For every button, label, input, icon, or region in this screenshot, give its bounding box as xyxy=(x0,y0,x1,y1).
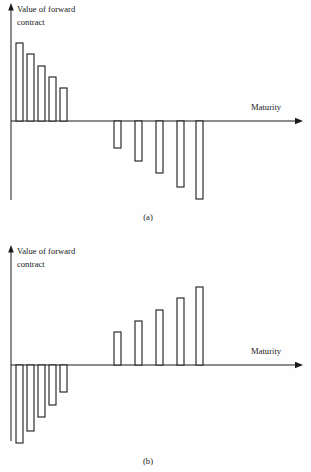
x-axis-arrowhead-a xyxy=(295,118,303,124)
panel-b-plot: Value of forward contract Maturity (b) xyxy=(0,236,311,472)
panel-a: Value of forward contract Maturity (a) xyxy=(0,0,311,236)
y-axis-label-line2-b: contract xyxy=(17,259,45,269)
bar-b-10 xyxy=(196,287,203,365)
bar-b-8 xyxy=(156,310,163,365)
y-axis-label-line2-a: contract xyxy=(17,17,45,27)
bar-a-6 xyxy=(114,121,121,148)
bar-a-7 xyxy=(135,121,142,161)
panel-caption-a: (a) xyxy=(143,212,153,222)
x-axis-label-a: Maturity xyxy=(251,102,282,112)
panel-caption-b: (b) xyxy=(143,456,153,466)
bar-a-4 xyxy=(49,77,56,121)
y-axis-label-line1-b: Value of forward xyxy=(17,246,76,256)
bar-b-7 xyxy=(135,321,142,365)
panel-a-plot: Value of forward contract Maturity (a) xyxy=(0,0,311,236)
y-axis-label-line1-a: Value of forward xyxy=(17,4,76,14)
bar-a-8 xyxy=(156,121,163,173)
bar-b-9 xyxy=(177,298,184,365)
y-axis-arrowhead-b xyxy=(8,245,14,253)
bar-b-2 xyxy=(27,365,34,431)
bar-a-2 xyxy=(27,54,34,121)
bar-a-5 xyxy=(60,88,67,121)
chart-a-svg: Value of forward contract Maturity (a) xyxy=(0,0,311,236)
bar-a-9 xyxy=(177,121,184,187)
bar-b-4 xyxy=(49,365,56,405)
bar-b-3 xyxy=(38,365,45,417)
bar-b-6 xyxy=(114,332,121,365)
bar-b-5 xyxy=(60,365,67,392)
figure-container: Value of forward contract Maturity (a) xyxy=(0,0,311,472)
x-axis-arrowhead-b xyxy=(295,362,303,368)
bar-a-10 xyxy=(196,121,203,199)
panel-b: Value of forward contract Maturity (b) xyxy=(0,236,311,472)
bar-a-3 xyxy=(38,66,45,121)
bar-b-1 xyxy=(16,365,23,443)
chart-b-svg: Value of forward contract Maturity (b) xyxy=(0,236,311,472)
bar-a-1 xyxy=(16,43,23,121)
y-axis-arrowhead-a xyxy=(8,3,14,11)
x-axis-label-b: Maturity xyxy=(251,346,282,356)
